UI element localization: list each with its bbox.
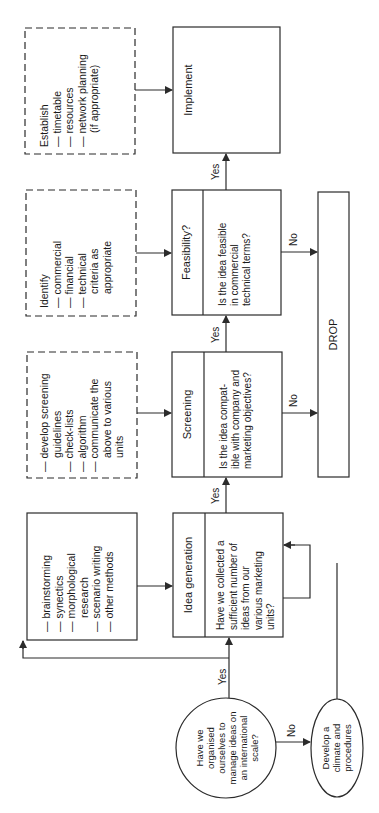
establish-line: — timetable [51, 27, 64, 147]
develop-line: climate and [331, 706, 342, 790]
question-line: Have we collected a [215, 515, 228, 630]
question-line: units? [265, 515, 278, 630]
question-line: ideas from our [240, 515, 253, 630]
identify-line: appropriate [101, 188, 114, 308]
screening-question: Is the idea compat- ible with company an… [218, 354, 254, 469]
establish-line: — network planning [76, 27, 89, 147]
idea-generation-question: Have we collected a sufficient number of… [215, 515, 278, 630]
screening-title: Screening [181, 352, 194, 477]
decision-line: manage ideas on [227, 701, 238, 795]
question-line: Is the idea feasible [217, 191, 229, 306]
establish-line: (if appropriate) [88, 27, 101, 147]
question-line: in commercial [229, 191, 241, 306]
guideline-line: — communicate the [88, 352, 101, 472]
identify-line: — technical [76, 188, 89, 308]
yes-label: Yes [210, 164, 223, 180]
establish-line: — resources [63, 27, 76, 147]
identify-line: — commercial [51, 188, 64, 308]
identify-text: Identify — commercial — financial — tech… [38, 188, 113, 308]
question-line: marketing objectives? [242, 354, 254, 469]
guideline-line: — check-lists [63, 352, 76, 472]
drop-label: DROP [327, 192, 340, 477]
question-line: technical terms? [241, 191, 253, 306]
identify-line: Identify [38, 188, 51, 308]
decision-line: ourselves to [216, 701, 227, 795]
idea-generation-title: Idea generation [182, 513, 195, 637]
establish-text: Establish — timetable — resources — netw… [38, 27, 101, 147]
guideline-line: — develop screening [38, 352, 51, 472]
yes-label: Yes [217, 669, 230, 685]
identify-line: criteria as [88, 188, 101, 308]
yes-label: Yes [210, 488, 223, 504]
question-line: ible with company and [230, 354, 242, 469]
no-label: No [288, 233, 301, 246]
no-label: No [286, 724, 299, 737]
develop-text: Develop a climate and procedures [320, 706, 353, 790]
question-line: sufficient number of [228, 515, 241, 630]
develop-line: Develop a [320, 706, 331, 790]
no-label: No [288, 394, 301, 407]
question-line: various marketing [253, 515, 266, 630]
decision-line: organised [205, 701, 216, 795]
implement-title: Implement [182, 27, 195, 153]
guideline-line: units [113, 352, 126, 472]
guideline-line: guidelines [51, 352, 64, 472]
guideline-line: above to various [101, 352, 114, 472]
method-line: — brainstorming [40, 512, 53, 632]
decision-line: scale? [249, 701, 260, 795]
question-line: Is the idea compat- [218, 354, 230, 469]
develop-line: procedures [342, 706, 353, 790]
method-line: — other methods [103, 512, 116, 632]
decision-line: Have we [194, 701, 205, 795]
methods-text: — brainstorming — synectics — morphologi… [40, 512, 115, 632]
feasibility-title: Feasibility? [180, 190, 193, 315]
guideline-line: — algorithm [76, 352, 89, 472]
feasibility-question: Is the idea feasible in commercial techn… [217, 191, 253, 306]
screening-guidelines-text: — develop screening guidelines — check-l… [38, 352, 126, 472]
method-line: research [78, 512, 91, 632]
decision-line: an international [238, 701, 249, 795]
method-line: — scenario writing [90, 512, 103, 632]
establish-line: Establish [38, 27, 51, 147]
method-line: — synectics [53, 512, 66, 632]
method-line: — morphological [65, 512, 78, 632]
yes-label: Yes [210, 327, 223, 343]
start-decision-text: Have we organised ourselves to manage id… [194, 701, 260, 795]
identify-line: — financial [63, 188, 76, 308]
